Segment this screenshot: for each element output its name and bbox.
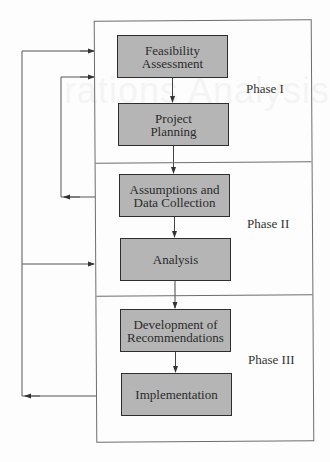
step-line-2: Planning [150, 125, 196, 138]
phase-divider-2 [96, 294, 312, 296]
feedback-loop-inner [61, 77, 95, 197]
phase-label-3: Phase III [248, 352, 295, 368]
phase-label-1: Phase I [246, 81, 284, 97]
step-development-of-recommendations: Development of Recommendations [120, 309, 231, 352]
step-line-1: Assumptions and [130, 183, 220, 196]
step-line-1: Development of [127, 318, 224, 331]
step-project-planning: Project Planning [118, 103, 229, 146]
step-line-1: Implementation [135, 388, 217, 401]
step-line-1: Project [150, 112, 196, 125]
step-assumptions-data-collection: Assumptions and Data Collection [119, 174, 230, 217]
step-line-1: Feasibility [142, 44, 203, 57]
feedback-loops [22, 51, 96, 396]
step-line-1: Analysis [153, 253, 199, 266]
step-implementation: Implementation [121, 373, 232, 416]
step-feasibility-assessment: Feasibility Assessment [117, 35, 228, 78]
phase-label-2: Phase II [247, 216, 289, 232]
step-line-2: Assessment [142, 57, 203, 70]
step-line-2: Recommendations [127, 331, 224, 344]
step-analysis: Analysis [120, 238, 231, 281]
step-line-2: Data Collection [130, 196, 220, 209]
feedback-loop-outer [22, 51, 96, 396]
phase-divider-1 [96, 161, 312, 163]
